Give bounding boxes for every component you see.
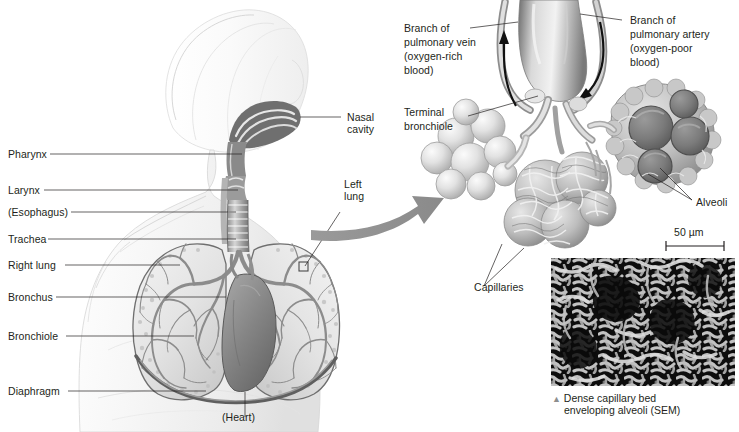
label-bronchiole: Bronchiole bbox=[8, 330, 58, 343]
label-nasal-cavity-line2: cavity bbox=[347, 123, 374, 136]
label-left-lung-line2: lung bbox=[344, 190, 364, 203]
sem-micrograph bbox=[551, 258, 735, 386]
label-nasal-cavity-line1: Nasal bbox=[347, 111, 374, 124]
label-heart: (Heart) bbox=[222, 411, 255, 424]
label-pulmonary-vein-line1: Branch of bbox=[404, 22, 449, 35]
label-alveoli: Alveoli bbox=[696, 196, 727, 209]
label-larynx: Larynx bbox=[8, 184, 40, 197]
caption-triangle-icon: ▲ bbox=[552, 394, 561, 404]
label-pulmonary-vein-line3: (oxygen-rich bbox=[404, 50, 462, 63]
label-right-lung: Right lung bbox=[8, 259, 56, 272]
label-pulmonary-artery-line3: (oxygen-poor bbox=[630, 42, 692, 55]
caption-line2: enveloping alveoli (SEM) bbox=[564, 404, 680, 416]
label-trachea: Trachea bbox=[8, 233, 46, 246]
scale-bar-label: 50 µm bbox=[674, 226, 704, 239]
label-pulmonary-vein-line2: pulmonary vein bbox=[404, 36, 476, 49]
label-pulmonary-artery-line1: Branch of bbox=[630, 14, 675, 27]
alveolus-lumen bbox=[629, 106, 673, 150]
label-terminal-bronchiole-line1: Terminal bbox=[404, 106, 444, 119]
label-diaphragm: Diaphragm bbox=[8, 385, 60, 398]
respiratory-system-figure bbox=[0, 0, 739, 432]
label-pharynx: Pharynx bbox=[8, 148, 47, 161]
caption-line1: Dense capillary bed bbox=[564, 392, 656, 404]
label-left-lung-line1: Left bbox=[344, 178, 362, 191]
label-pulmonary-vein-line4: blood) bbox=[404, 64, 434, 77]
label-pulmonary-artery-line4: blood) bbox=[630, 56, 660, 69]
label-capillaries: Capillaries bbox=[474, 281, 524, 294]
pharynx-shape bbox=[227, 142, 248, 176]
alveolus-lumen bbox=[670, 90, 698, 118]
label-esophagus: (Esophagus) bbox=[8, 206, 68, 219]
label-terminal-bronchiole-line2: bronchiole bbox=[404, 120, 453, 133]
label-bronchus: Bronchus bbox=[8, 291, 53, 304]
alveolus-lumen bbox=[671, 117, 709, 155]
label-pulmonary-artery-line2: pulmonary artery bbox=[630, 28, 710, 41]
